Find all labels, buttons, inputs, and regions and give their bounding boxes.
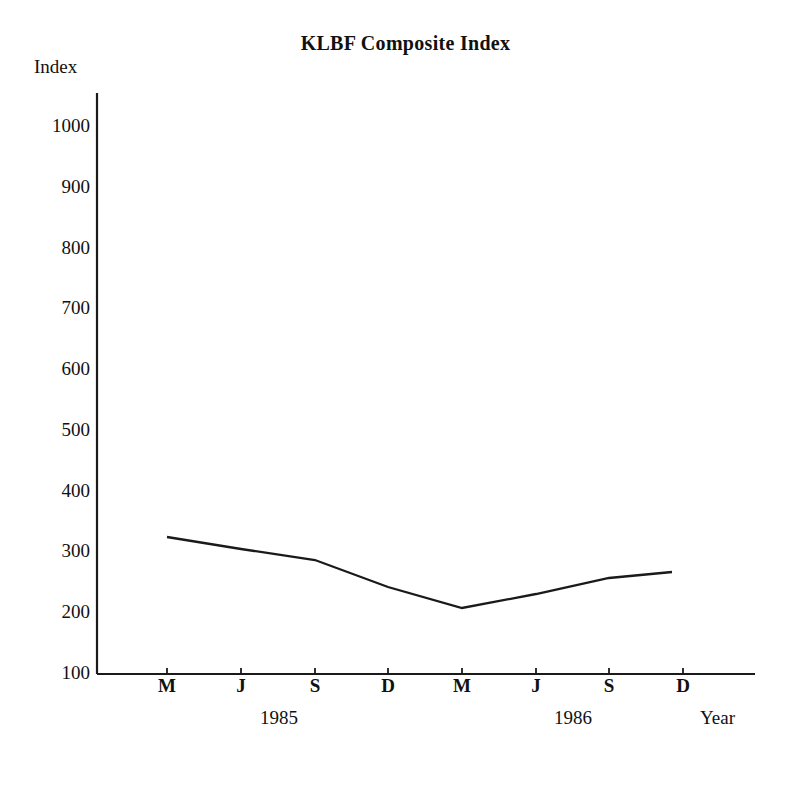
chart-figure: KLBF Composite Index Index Year 1000 900… [0,0,811,785]
series-line-klbf-composite-index [167,537,672,608]
plot-area [0,0,811,785]
